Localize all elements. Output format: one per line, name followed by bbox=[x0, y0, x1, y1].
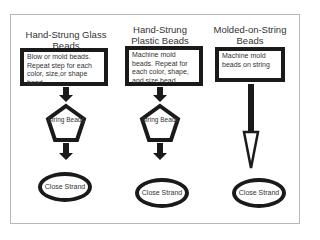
down-arrow-icon bbox=[58, 143, 74, 161]
down-arrow-icon bbox=[152, 87, 168, 103]
close-strand-oval-molded: Close Strand bbox=[232, 178, 286, 208]
column-title-plastic: Hand-Strung Plastic Beads bbox=[118, 24, 202, 46]
step-box-molded: Machine mold beads on string bbox=[215, 47, 285, 82]
column-title-molded: Molded-on-String Beads bbox=[208, 24, 292, 46]
step-box-glass: Blow or mold beads. Repeat step for each… bbox=[20, 48, 108, 86]
step-label-string-glass: String Beads bbox=[46, 116, 86, 124]
step-label-string-plastic: String Beads bbox=[140, 116, 180, 124]
down-arrow-icon bbox=[152, 143, 168, 161]
long-down-arrow-icon bbox=[242, 84, 260, 170]
close-strand-oval-glass: Close Strand bbox=[38, 172, 92, 202]
close-strand-oval-plastic: Close Strand bbox=[135, 178, 189, 208]
step-box-plastic: Machine mold beads. Repeat for each colo… bbox=[125, 46, 203, 86]
down-arrow-icon bbox=[58, 87, 74, 103]
